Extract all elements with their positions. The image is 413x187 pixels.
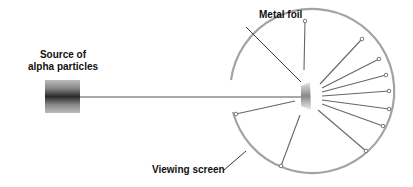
source-label-line2: alpha particles bbox=[28, 61, 98, 73]
rutherford-diagram bbox=[0, 0, 413, 187]
source-label-line1: Source of bbox=[28, 49, 98, 61]
metal-foil bbox=[301, 82, 311, 110]
scattered-rays bbox=[236, 21, 389, 166]
foil-leader-line bbox=[246, 27, 301, 82]
metal-foil-label: Metal foil bbox=[259, 9, 302, 21]
source-label: Source of alpha particles bbox=[28, 49, 98, 73]
impact-dots bbox=[234, 19, 391, 168]
alpha-source bbox=[45, 80, 80, 113]
viewing-screen bbox=[231, 9, 394, 173]
screen-leader-line bbox=[224, 151, 246, 170]
viewing-screen-label: Viewing screen bbox=[152, 164, 225, 176]
